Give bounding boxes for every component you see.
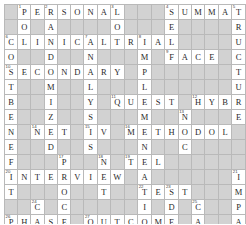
crossword-cell-letter[interactable]: 20I: [5, 170, 18, 185]
crossword-cell-letter[interactable]: N: [18, 170, 31, 185]
crossword-cell-letter[interactable]: 13N: [178, 110, 191, 125]
crossword-cell-letter[interactable]: 10S: [5, 65, 18, 80]
crossword-cell-letter[interactable]: D: [44, 140, 58, 155]
crossword-cell-letter[interactable]: N: [44, 35, 58, 50]
crossword-cell-letter[interactable]: E: [97, 170, 110, 185]
crossword-cell-letter[interactable]: I: [58, 35, 71, 50]
crossword-cell-letter[interactable]: S: [44, 215, 58, 225]
crossword-cell-letter[interactable]: A: [232, 215, 246, 225]
crossword-cell-letter[interactable]: O: [18, 20, 31, 35]
crossword-cell-letter[interactable]: V: [97, 125, 110, 140]
crossword-cell-letter[interactable]: O: [138, 215, 152, 225]
crossword-cell-letter[interactable]: E: [18, 65, 31, 80]
crossword-cell-letter[interactable]: A: [138, 170, 152, 185]
crossword-cell-letter[interactable]: I: [138, 200, 152, 215]
crossword-cell-letter[interactable]: F: [5, 155, 18, 170]
crossword-cell-letter[interactable]: D: [71, 65, 84, 80]
crossword-cell-letter[interactable]: R: [124, 35, 138, 50]
crossword-cell-letter[interactable]: L: [84, 80, 97, 95]
crossword-cell-letter[interactable]: N: [5, 125, 18, 140]
crossword-cell-letter[interactable]: T: [178, 185, 191, 200]
crossword-cell-letter[interactable]: V: [71, 170, 84, 185]
crossword-cell-letter[interactable]: E: [44, 125, 58, 140]
crossword-cell-letter[interactable]: T: [58, 125, 71, 140]
crossword-cell-letter[interactable]: E: [5, 140, 18, 155]
crossword-cell-letter[interactable]: A: [191, 215, 205, 225]
crossword-cell-letter[interactable]: L: [151, 155, 165, 170]
crossword-cell-letter[interactable]: S: [84, 110, 97, 125]
crossword-cell-letter[interactable]: N: [138, 140, 152, 155]
crossword-cell-letter[interactable]: 25C: [191, 200, 205, 215]
crossword-cell-letter[interactable]: U: [232, 80, 246, 95]
crossword-cell-letter[interactable]: O: [71, 5, 84, 20]
crossword-cell-letter[interactable]: R: [232, 20, 246, 35]
crossword-cell-letter[interactable]: O: [205, 125, 219, 140]
crossword-cell-letter[interactable]: S: [151, 95, 165, 110]
crossword-cell-letter[interactable]: M: [232, 185, 246, 200]
crossword-cell-letter[interactable]: L: [97, 35, 110, 50]
crossword-cell-letter[interactable]: C: [124, 215, 138, 225]
crossword-cell-letter[interactable]: E: [232, 110, 246, 125]
crossword-cell-letter[interactable]: A: [151, 35, 165, 50]
crossword-cell-letter[interactable]: H: [165, 125, 178, 140]
crossword-cell-letter[interactable]: L: [219, 125, 232, 140]
crossword-cell-letter[interactable]: A: [31, 215, 44, 225]
crossword-cell-letter[interactable]: E: [138, 95, 152, 110]
crossword-cell-letter[interactable]: 16M: [124, 125, 138, 140]
crossword-cell-letter[interactable]: M: [191, 5, 205, 20]
crossword-cell-letter[interactable]: 6C: [5, 35, 18, 50]
crossword-cell-letter[interactable]: H: [18, 215, 31, 225]
crossword-cell-letter[interactable]: A: [178, 50, 191, 65]
crossword-cell-letter[interactable]: P: [232, 200, 246, 215]
crossword-cell-letter[interactable]: U: [232, 35, 246, 50]
crossword-cell-letter[interactable]: O: [178, 125, 191, 140]
crossword-cell-letter[interactable]: L: [18, 35, 31, 50]
crossword-cell-letter[interactable]: 14N: [31, 125, 44, 140]
crossword-cell-letter[interactable]: 23S: [165, 185, 178, 200]
crossword-cell-letter[interactable]: 12H: [191, 95, 205, 110]
crossword-grid[interactable]: 1PE2RSONA3L4SUMMA5TOAOER6CLINIC7ALTR8IAL…: [4, 4, 246, 224]
crossword-cell-letter[interactable]: N: [84, 50, 97, 65]
crossword-cell-letter[interactable]: M: [138, 110, 152, 125]
crossword-cell-letter[interactable]: T: [110, 35, 124, 50]
crossword-cell-letter[interactable]: Z: [44, 110, 58, 125]
crossword-cell-letter[interactable]: 11Q: [110, 95, 124, 110]
crossword-cell-letter[interactable]: C: [178, 140, 191, 155]
crossword-cell-letter[interactable]: E: [44, 170, 58, 185]
crossword-cell-letter[interactable]: O: [58, 185, 71, 200]
crossword-cell-letter[interactable]: Y: [205, 95, 219, 110]
crossword-cell-letter[interactable]: T: [97, 185, 110, 200]
crossword-cell-letter[interactable]: E: [151, 185, 165, 200]
crossword-cell-letter[interactable]: E: [5, 110, 18, 125]
crossword-cell-letter[interactable]: D: [44, 50, 58, 65]
crossword-cell-letter[interactable]: E: [138, 155, 152, 170]
crossword-cell-letter[interactable]: 3L: [110, 5, 124, 20]
crossword-cell-letter[interactable]: A: [84, 65, 97, 80]
crossword-cell-letter[interactable]: 4S: [165, 5, 178, 20]
crossword-cell-letter[interactable]: L: [165, 35, 178, 50]
crossword-cell-letter[interactable]: P: [138, 65, 152, 80]
crossword-cell-letter[interactable]: M: [151, 215, 165, 225]
crossword-cell-letter[interactable]: T: [110, 215, 124, 225]
crossword-cell-letter[interactable]: T: [165, 95, 178, 110]
crossword-cell-letter[interactable]: T: [5, 185, 18, 200]
crossword-cell-letter[interactable]: C: [71, 35, 84, 50]
crossword-cell-letter[interactable]: E: [31, 5, 44, 20]
crossword-cell-letter[interactable]: R: [232, 95, 246, 110]
crossword-cell-letter[interactable]: U: [97, 215, 110, 225]
crossword-cell-letter[interactable]: 5T: [232, 5, 246, 20]
crossword-cell-letter[interactable]: 9F: [165, 50, 178, 65]
crossword-cell-letter[interactable]: N: [58, 65, 71, 80]
crossword-cell-letter[interactable]: C: [31, 65, 44, 80]
crossword-cell-letter[interactable]: 26P: [5, 215, 18, 225]
crossword-cell-letter[interactable]: C: [58, 200, 71, 215]
crossword-cell-letter[interactable]: E: [205, 50, 219, 65]
crossword-cell-letter[interactable]: 22T: [138, 185, 152, 200]
crossword-cell-letter[interactable]: A: [97, 5, 110, 20]
crossword-cell-letter[interactable]: B: [219, 95, 232, 110]
crossword-cell-letter[interactable]: I: [44, 95, 58, 110]
crossword-cell-letter[interactable]: 27O: [84, 215, 97, 225]
crossword-cell-letter[interactable]: R: [97, 65, 110, 80]
crossword-cell-letter[interactable]: U: [124, 95, 138, 110]
crossword-cell-letter[interactable]: Y: [110, 65, 124, 80]
